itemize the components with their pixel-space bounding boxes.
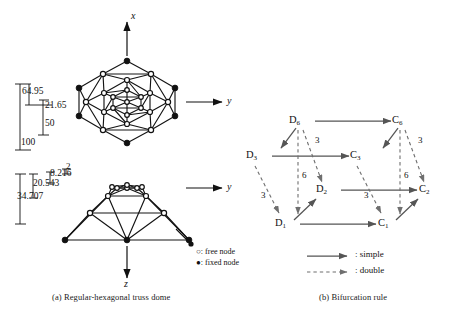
bif-node-D2: D2 bbox=[316, 183, 327, 194]
bif-node-C1-base: C bbox=[378, 217, 385, 228]
bif-node-C2: C2 bbox=[419, 183, 430, 194]
bif-node-D3-sub: 3 bbox=[254, 154, 258, 162]
bif-node-D3: D3 bbox=[246, 149, 257, 160]
plan-dim-100: 100 bbox=[21, 137, 35, 147]
bif-node-C1-sub: 1 bbox=[385, 222, 389, 230]
bif-node-D2-sub: 2 bbox=[324, 188, 328, 196]
plan-dim-64-95: 64.95 bbox=[22, 86, 43, 96]
axis-label-x: x bbox=[131, 10, 135, 21]
bif-mult-2: 3 bbox=[418, 135, 423, 145]
bif-node-D1: D1 bbox=[275, 217, 286, 228]
bif-node-D3-base: D bbox=[246, 149, 254, 160]
legend-double-text: : double bbox=[355, 265, 384, 275]
axis-label-y-elevation: y bbox=[227, 181, 231, 192]
bif-mult-1: 3 bbox=[315, 135, 320, 145]
bif-mult-6: 3 bbox=[364, 190, 369, 200]
bif-node-D6: D6 bbox=[289, 114, 300, 125]
bif-node-C2-sub: 2 bbox=[426, 188, 430, 196]
bif-node-D2-base: D bbox=[316, 183, 324, 194]
elevation-truss-members bbox=[65, 185, 189, 240]
plan-free-nodes bbox=[83, 71, 170, 132]
bif-node-C1: C1 bbox=[378, 217, 389, 228]
caption-b: (b) Bifurcation rule bbox=[319, 292, 387, 302]
bif-simple-arrows bbox=[272, 121, 418, 224]
elev-dim-20-543: 20.543 bbox=[33, 178, 59, 188]
caption-a: (a) Regular-hexagonal truss dome bbox=[52, 292, 170, 302]
bif-mult-5: 3 bbox=[261, 190, 266, 200]
legend-simple-text: : simple bbox=[355, 249, 384, 259]
bif-legend-arrows bbox=[307, 256, 347, 272]
bif-node-C6: C6 bbox=[392, 114, 403, 125]
legend-free-node: ○: free node bbox=[196, 247, 235, 257]
bif-node-C3-sub: 3 bbox=[357, 154, 361, 162]
bif-node-C3-base: C bbox=[350, 149, 357, 160]
bif-double-arrows bbox=[255, 130, 424, 214]
bif-node-D1-base: D bbox=[275, 217, 283, 228]
bif-node-C3: C3 bbox=[350, 149, 361, 160]
legend-pointer bbox=[176, 229, 190, 243]
elev-dim-8-216: 8.216 bbox=[50, 168, 71, 178]
figure-root: 64.95 21.65 50 100 2 8.216 20.543 34.707… bbox=[0, 0, 454, 314]
axis-label-y-plan: y bbox=[227, 95, 231, 106]
bif-node-D1-sub: 1 bbox=[283, 222, 287, 230]
elev-dim-34-707: 34.707 bbox=[17, 191, 43, 201]
plan-dim-50: 50 bbox=[45, 118, 55, 128]
bif-node-C2-base: C bbox=[419, 183, 426, 194]
axis-label-z: z bbox=[124, 278, 128, 289]
elevation-free-nodes bbox=[87, 183, 166, 216]
legend-fixed-node: ●: fixed node bbox=[196, 258, 239, 268]
plan-dim-21-65: 21.65 bbox=[45, 100, 66, 110]
legend-pointer-dot bbox=[188, 241, 193, 246]
bif-node-D6-sub: 6 bbox=[297, 119, 301, 127]
bif-mult-3: 6 bbox=[302, 170, 307, 180]
bif-node-C6-sub: 6 bbox=[399, 119, 403, 127]
bif-mult-4: 6 bbox=[404, 170, 409, 180]
bif-node-D6-base: D bbox=[289, 114, 297, 125]
bif-node-C6-base: C bbox=[392, 114, 399, 125]
